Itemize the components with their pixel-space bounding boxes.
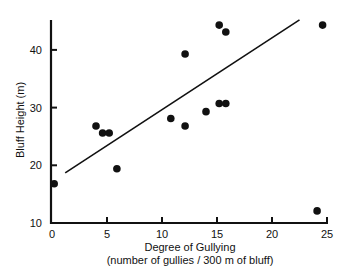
- x-tick-label: 10: [156, 228, 168, 240]
- plot-area: [50, 20, 326, 215]
- data-point: [215, 100, 223, 108]
- x-tick-label: 5: [104, 228, 110, 240]
- y-tick-label: 20: [30, 159, 42, 171]
- data-point: [222, 28, 230, 36]
- data-point: [105, 129, 113, 137]
- data-point: [92, 122, 100, 130]
- data-point: [313, 207, 321, 215]
- x-axis-subtitle: (number of gullies / 300 m of bluff): [107, 254, 274, 266]
- x-tick-label: 20: [266, 228, 278, 240]
- data-point: [222, 100, 230, 108]
- y-axis-title: Bluff Height (m): [14, 82, 26, 158]
- x-tick-label: 15: [211, 228, 223, 240]
- x-axis-title: Degree of Gullying: [144, 241, 235, 253]
- data-point: [113, 165, 121, 173]
- scatter-chart: 051015202510203040 Bluff Height (m) Degr…: [0, 0, 348, 276]
- data-point: [99, 129, 107, 137]
- data-point: [167, 115, 175, 123]
- y-tick-label: 30: [30, 102, 42, 114]
- y-tick-label: 10: [30, 217, 42, 229]
- y-tick-label: 40: [30, 44, 42, 56]
- data-point: [181, 122, 189, 130]
- data-point: [202, 108, 210, 116]
- data-point: [215, 21, 223, 29]
- data-point: [319, 21, 327, 29]
- x-tick-label: 0: [49, 228, 55, 240]
- data-point: [181, 50, 189, 58]
- trend-line: [65, 20, 299, 173]
- x-tick-label: 25: [321, 228, 333, 240]
